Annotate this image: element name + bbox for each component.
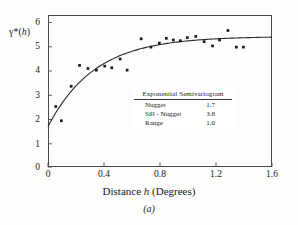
- data-point: [242, 46, 245, 49]
- y-tick-label-5: 5: [26, 42, 40, 52]
- x-tick-label-1-2: 1.2: [203, 170, 229, 180]
- data-point: [235, 46, 238, 49]
- x-tick-label-0: 0: [35, 170, 61, 180]
- y-tick-label-2: 2: [26, 115, 40, 125]
- panel-caption: (a): [0, 203, 298, 214]
- x-axis-ticks: [48, 163, 272, 168]
- y-axis-ticks: [48, 23, 52, 168]
- y-tick-label-6: 6: [26, 18, 40, 28]
- data-point: [227, 29, 230, 32]
- x-tick-label-0-4: 0.4: [91, 170, 117, 180]
- data-point: [70, 85, 73, 88]
- data-point: [140, 37, 143, 40]
- data-point: [194, 35, 197, 38]
- data-point: [78, 64, 81, 67]
- legend-row-range: Range 1.0: [134, 118, 232, 127]
- semivariogram-figure: γ*(h) 6 5 4 3 2 1 0: [0, 0, 298, 225]
- x-axis-label-suffix: (Degrees): [149, 185, 195, 197]
- data-point: [95, 69, 98, 72]
- data-point: [103, 65, 106, 68]
- legend-value-sill-minus-nugget: 3.8: [206, 110, 232, 118]
- x-axis-label: Distance h (Degrees): [0, 185, 298, 197]
- data-point: [126, 69, 129, 72]
- y-tick-label-4: 4: [26, 66, 40, 76]
- data-point: [150, 46, 153, 49]
- legend-row-sill-minus-nugget: Sill - Nugget 3.8: [134, 109, 232, 118]
- y-tick-label-3: 3: [26, 91, 40, 101]
- data-point: [87, 67, 90, 70]
- data-point: [165, 37, 168, 40]
- y-tick-label-1: 1: [26, 140, 40, 150]
- data-point: [186, 36, 189, 39]
- legend-label-sill-minus-nugget: Sill - Nugget: [134, 110, 181, 118]
- data-point: [54, 105, 57, 108]
- data-point: [158, 42, 161, 45]
- x-tick-label-1-6: 1.6: [259, 170, 285, 180]
- data-point: [119, 58, 122, 61]
- model-parameter-legend: Exponential Semivariogram Nugget 1.7 Sil…: [131, 88, 235, 130]
- legend-value-nugget: 1.7: [206, 101, 232, 109]
- x-tick-label-0-8: 0.8: [147, 170, 173, 180]
- legend-title: Exponential Semivariogram: [134, 90, 232, 100]
- x-axis-label-prefix: Distance: [103, 185, 144, 197]
- data-point: [172, 39, 175, 42]
- legend-row-nugget: Nugget 1.7: [134, 100, 232, 109]
- data-point: [179, 39, 182, 42]
- data-point: [203, 40, 206, 43]
- data-point: [110, 66, 113, 69]
- data-point: [218, 39, 221, 42]
- legend-value-range: 1.0: [206, 119, 232, 127]
- legend-label-range: Range: [134, 119, 163, 127]
- data-point: [211, 45, 214, 48]
- legend-label-nugget: Nugget: [134, 101, 166, 109]
- data-point: [60, 119, 63, 122]
